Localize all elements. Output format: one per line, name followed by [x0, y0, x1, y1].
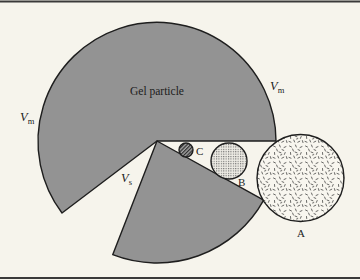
molecule-b-circle — [211, 143, 247, 179]
vm-right-sub: m — [278, 85, 285, 95]
vs-label: Vs — [121, 171, 132, 187]
molecule-c-label: C — [196, 145, 203, 157]
vm-left-sub: m — [28, 116, 35, 126]
gel-particle-label: Gel particle — [130, 85, 184, 98]
vm-left-label: Vm — [20, 110, 35, 126]
molecule-a-circle — [257, 135, 344, 222]
molecule-a-label: A — [297, 227, 305, 239]
molecule-b-label: B — [238, 176, 245, 188]
gel-particle-diagram: Gel particle Vm Vm Vs C B A — [0, 0, 360, 280]
vm-right-label: Vm — [270, 79, 285, 95]
vs-sub: s — [129, 177, 132, 187]
molecule-c-circle — [179, 143, 193, 157]
